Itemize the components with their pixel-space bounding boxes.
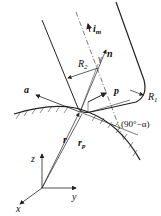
label-rp: rp bbox=[78, 137, 86, 150]
label-r2: R2 bbox=[77, 58, 88, 71]
tool-left-edge bbox=[42, 20, 78, 108]
label-y: y bbox=[71, 191, 77, 202]
label-x: x bbox=[15, 203, 21, 214]
label-a: a bbox=[24, 84, 29, 95]
tool-bottom-line bbox=[90, 100, 130, 112]
label-p: p bbox=[113, 85, 119, 96]
diagram-canvas: im γ n R2 R1 a p (90°−α) r rp z y x bbox=[0, 0, 161, 216]
label-angle: (90°−α) bbox=[121, 119, 149, 129]
label-gamma: γ bbox=[97, 53, 102, 63]
vector-r bbox=[42, 113, 79, 188]
label-r: r bbox=[63, 134, 67, 145]
axis-x bbox=[20, 188, 42, 204]
angle-arc bbox=[112, 122, 118, 126]
r1-dimension bbox=[130, 90, 143, 95]
im-arrow bbox=[88, 24, 90, 32]
label-z: z bbox=[30, 153, 35, 164]
label-im: im bbox=[93, 23, 102, 36]
vector-rp bbox=[42, 114, 82, 188]
label-r1: R1 bbox=[147, 91, 158, 104]
workpiece-surface bbox=[14, 106, 140, 160]
label-n: n bbox=[107, 48, 113, 59]
vector-p bbox=[88, 93, 106, 102]
